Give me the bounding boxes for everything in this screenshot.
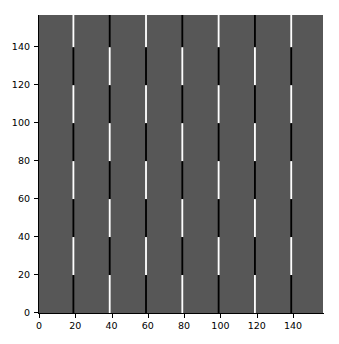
stripe-segment (145, 199, 147, 237)
stripe-segment (145, 161, 147, 199)
stripe-segment (109, 275, 111, 313)
y-tick-label: 100 (12, 117, 30, 128)
stripe-segment (109, 85, 111, 123)
stripe-segment (218, 47, 220, 85)
stripe-column (109, 15, 111, 313)
y-tick-mark (34, 160, 38, 161)
y-tick-label: 0 (24, 307, 30, 318)
stripe-segment (290, 15, 292, 47)
stripe-segment (218, 123, 220, 161)
x-tick-label: 20 (69, 320, 81, 331)
stripe-segment (218, 199, 220, 237)
stripe-segment (72, 15, 74, 47)
stripe-segment (72, 237, 74, 275)
y-tick-mark (34, 84, 38, 85)
stripe-column (145, 15, 147, 313)
stripe-segment (181, 47, 183, 85)
y-tick-label: 20 (18, 269, 30, 280)
stripe-segment (145, 123, 147, 161)
stripe-segment (181, 15, 183, 47)
stripe-column (181, 15, 183, 313)
x-tick-mark (75, 314, 76, 318)
x-tick-label: 0 (36, 320, 42, 331)
stripe-segment (218, 161, 220, 199)
stripe-segment (218, 275, 220, 313)
stripe-segment (145, 15, 147, 47)
stripe-segment (290, 85, 292, 123)
stripe-segment (72, 85, 74, 123)
stripe-segment (109, 199, 111, 237)
stripe-segment (109, 123, 111, 161)
x-tick-mark (148, 314, 149, 318)
x-tick-label: 120 (248, 320, 266, 331)
stripe-segment (145, 47, 147, 85)
stripe-segment (145, 237, 147, 275)
stripe-segment (254, 161, 256, 199)
stripe-segment (254, 199, 256, 237)
stripe-segment (290, 47, 292, 85)
x-tick-label: 100 (211, 320, 229, 331)
plot-area (38, 15, 323, 313)
axis-spine-left (38, 15, 39, 314)
x-tick-mark (257, 314, 258, 318)
stripe-segment (254, 275, 256, 313)
stripe-segment (72, 47, 74, 85)
x-tick-mark (293, 314, 294, 318)
stripe-segment (145, 85, 147, 123)
stripe-segment (290, 161, 292, 199)
y-tick-mark (34, 122, 38, 123)
x-tick-mark (112, 314, 113, 318)
stripe-segment (109, 15, 111, 47)
stripe-segment (290, 199, 292, 237)
stripe-segment (218, 237, 220, 275)
stripe-segment (181, 85, 183, 123)
stripe-segment (290, 237, 292, 275)
stripe-segment (254, 15, 256, 47)
y-tick-mark (34, 198, 38, 199)
figure-canvas: 020406080100120140 020406080100120140 (0, 0, 339, 344)
image-background (38, 15, 323, 313)
stripe-segment (254, 47, 256, 85)
y-tick-label: 60 (18, 193, 30, 204)
x-tick-label: 40 (105, 320, 117, 331)
y-tick-mark (34, 46, 38, 47)
stripe-segment (181, 123, 183, 161)
stripe-segment (72, 275, 74, 313)
x-tick-label: 140 (284, 320, 302, 331)
axis-spine-bottom (38, 313, 324, 314)
stripe-segment (72, 123, 74, 161)
stripe-column (218, 15, 220, 313)
x-tick-mark (184, 314, 185, 318)
stripe-segment (290, 123, 292, 161)
y-tick-mark (34, 312, 38, 313)
stripe-column (72, 15, 74, 313)
stripe-segment (218, 15, 220, 47)
stripe-segment (109, 161, 111, 199)
y-tick-label: 40 (18, 231, 30, 242)
stripe-segment (181, 237, 183, 275)
heatmap-image (38, 15, 323, 313)
stripe-segment (181, 161, 183, 199)
stripe-segment (181, 199, 183, 237)
stripe-segment (254, 237, 256, 275)
x-tick-label: 60 (142, 320, 154, 331)
stripe-segment (109, 47, 111, 85)
x-tick-mark (220, 314, 221, 318)
stripe-segment (218, 85, 220, 123)
stripe-column (254, 15, 256, 313)
stripe-segment (72, 161, 74, 199)
y-tick-mark (34, 236, 38, 237)
stripe-segment (254, 123, 256, 161)
y-tick-label: 140 (12, 41, 30, 52)
stripe-column (290, 15, 292, 313)
stripe-segment (181, 275, 183, 313)
y-tick-label: 120 (12, 79, 30, 90)
stripe-segment (145, 275, 147, 313)
x-tick-label: 80 (178, 320, 190, 331)
y-tick-label: 80 (18, 155, 30, 166)
stripe-segment (290, 275, 292, 313)
stripe-segment (254, 85, 256, 123)
y-tick-mark (34, 274, 38, 275)
x-tick-mark (39, 314, 40, 318)
stripe-segment (109, 237, 111, 275)
